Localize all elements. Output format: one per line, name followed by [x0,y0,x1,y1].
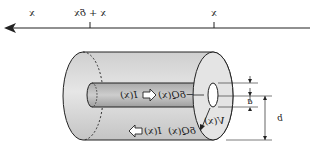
axis-label-x-right: x [211,8,217,18]
inner-conductor-end [208,83,218,107]
voltage-label: V(x) [204,116,225,126]
outer-charge-label: δQ(x) [168,126,196,136]
inner-dim-label: a [247,97,252,106]
x-axis [4,22,310,33]
axis-label-x-plus-dx: x + δx [74,8,106,18]
inner-current-label: I(x) [120,90,137,100]
outer-current-label: I(x) [144,126,161,136]
outer-dim-label: b [277,114,283,123]
axis-label-x-left: x [29,8,35,18]
inner-charge-label: −δQ(x) [158,90,194,100]
